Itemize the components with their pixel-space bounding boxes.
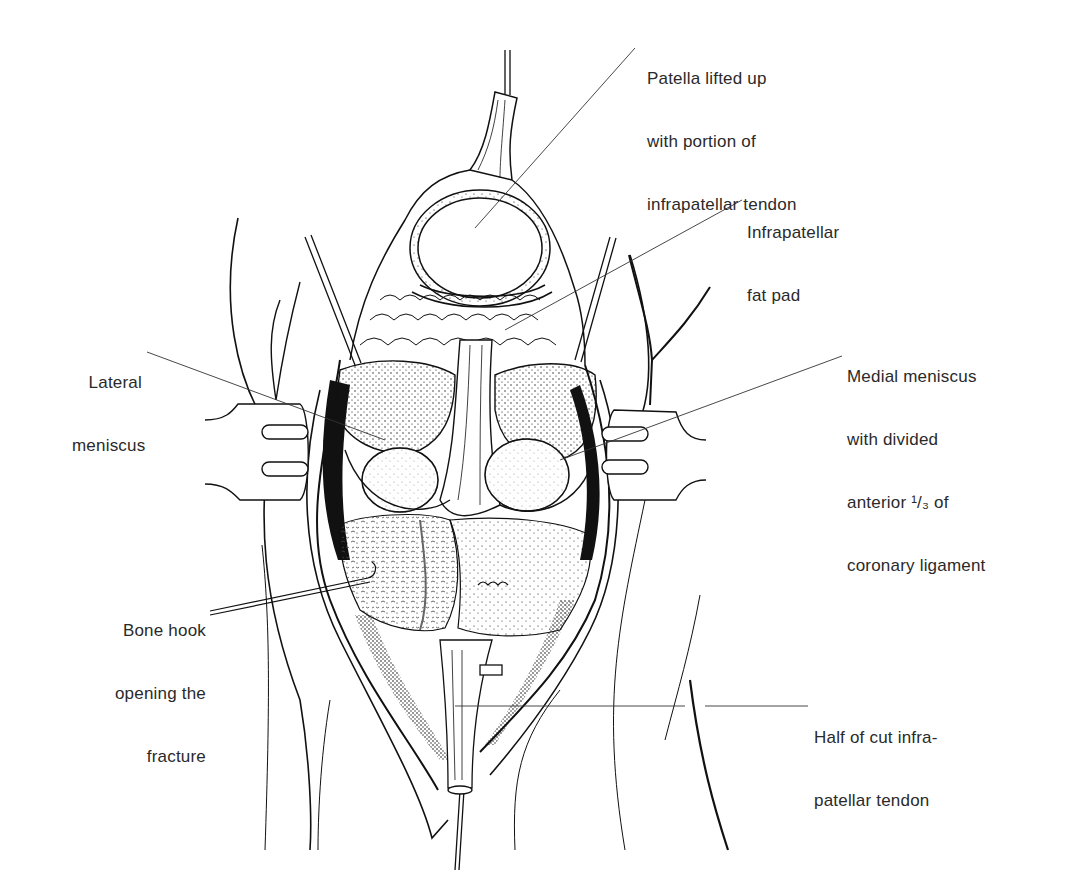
- label-cut-tendon-line-2: patellar tendon: [814, 790, 938, 811]
- label-lateral-meniscus: Lateral meniscus: [72, 330, 142, 477]
- label-bone-hook-line-1: Bone hook: [80, 620, 206, 641]
- label-medial-meniscus-line-2: with divided: [847, 429, 986, 450]
- label-cut-tendon-line-1: Half of cut infra-: [814, 727, 938, 748]
- label-lateral-meniscus-line-2: meniscus: [72, 435, 142, 456]
- label-cut-tendon: Half of cut infra- patellar tendon: [814, 685, 938, 832]
- label-lateral-meniscus-line-1: Lateral: [72, 372, 142, 393]
- label-bone-hook-line-2: opening the: [80, 683, 206, 704]
- tibial-plateau-fracture: [340, 515, 591, 636]
- label-bone-hook-line-3: fracture: [80, 746, 206, 767]
- retractor-left: [205, 404, 308, 500]
- label-fat-pad: Infrapatellar fat pad: [747, 180, 839, 327]
- label-fat-pad-line-2: fat pad: [747, 285, 839, 306]
- label-medial-meniscus: Medial meniscus with divided anterior ¹/…: [847, 324, 986, 597]
- label-bone-hook: Bone hook opening the fracture: [80, 578, 206, 788]
- retractor-right: [602, 410, 706, 500]
- label-medial-meniscus-line-4: coronary ligament: [847, 555, 986, 576]
- label-fat-pad-line-1: Infrapatellar: [747, 222, 839, 243]
- label-patella-line-1: Patella lifted up: [647, 68, 797, 89]
- label-medial-meniscus-line-3: anterior ¹/₃ of: [847, 492, 986, 513]
- patella-flap: [350, 92, 585, 365]
- label-patella-line-2: with portion of: [647, 131, 797, 152]
- label-medial-meniscus-line-1: Medial meniscus: [847, 366, 986, 387]
